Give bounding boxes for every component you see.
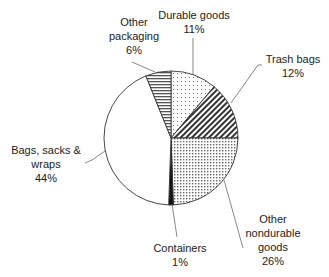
leader-containers xyxy=(172,204,177,237)
label-durable-pct: 11% xyxy=(158,22,230,36)
label-bags-pct: 44% xyxy=(8,171,84,185)
label-packaging-line2: packaging xyxy=(108,29,160,43)
label-nondurable-line1: Other xyxy=(240,212,306,226)
label-other-packaging: Other packaging 6% xyxy=(108,15,160,57)
label-nondurable-pct: 26% xyxy=(240,254,306,268)
label-bags-line1: Bags, sacks & xyxy=(8,143,84,157)
leader-trash-bags xyxy=(231,65,262,103)
label-durable-goods: Durable goods 11% xyxy=(158,8,230,36)
label-other-nondurable-goods: Other nondurable goods 26% xyxy=(240,212,306,268)
label-durable-name: Durable goods xyxy=(158,8,230,22)
label-containers-name: Containers xyxy=(148,241,212,255)
label-trash-pct: 12% xyxy=(262,66,324,80)
label-trash-bags: Trash bags 12% xyxy=(262,52,324,80)
label-nondurable-line2: nondurable xyxy=(240,226,306,240)
leader-bags xyxy=(85,151,105,163)
leader-other-packaging xyxy=(132,62,155,72)
label-containers-pct: 1% xyxy=(148,255,212,269)
pie-slices xyxy=(104,71,238,205)
label-packaging-line1: Other xyxy=(108,15,160,29)
label-bags-line2: wraps xyxy=(8,157,84,171)
label-nondurable-line3: goods xyxy=(240,240,306,254)
label-packaging-pct: 6% xyxy=(108,43,160,57)
label-containers: Containers 1% xyxy=(148,241,212,269)
label-bags-sacks-wraps: Bags, sacks & wraps 44% xyxy=(8,143,84,185)
label-trash-name: Trash bags xyxy=(262,52,324,66)
